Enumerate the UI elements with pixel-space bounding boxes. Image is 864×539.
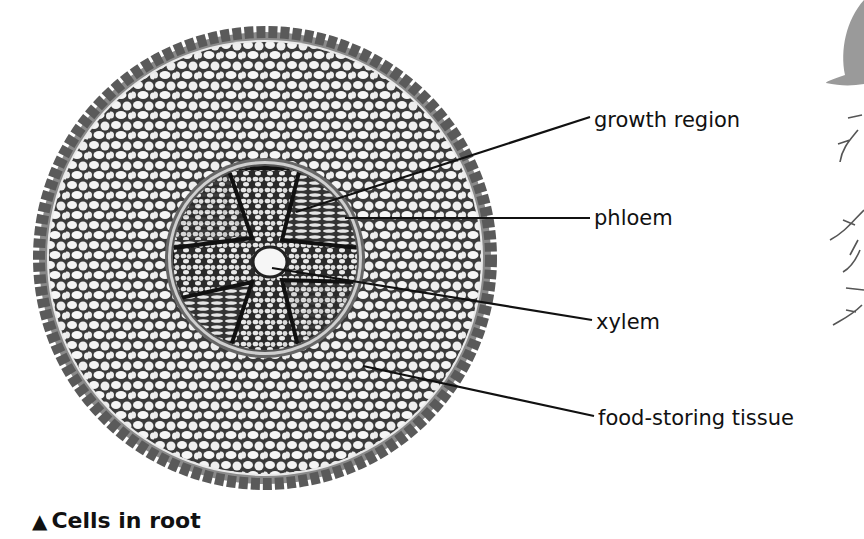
label-food-storing-tissue: food-storing tissue: [598, 408, 794, 429]
caption-text: Cells in root: [51, 508, 200, 533]
figure-caption: ▲Cells in root: [32, 508, 201, 533]
root-cross-section-diagram: [0, 0, 864, 539]
label-growth-region: growth region: [594, 110, 740, 131]
label-phloem: phloem: [594, 208, 673, 229]
triangle-marker-icon: ▲: [32, 509, 47, 533]
label-xylem: xylem: [596, 312, 660, 333]
plant-root-illustration: [826, 0, 864, 325]
